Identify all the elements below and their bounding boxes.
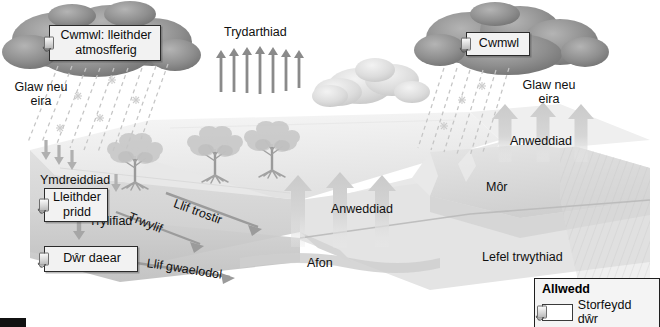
water-store-icon bbox=[38, 199, 49, 212]
store-box-cloud-right-label: Cwmwl bbox=[470, 35, 526, 52]
store-box-cloud-left-label: Cwmwl: lleithder atmosfferig bbox=[50, 27, 160, 58]
label-transpiration: Trydarthiad bbox=[224, 25, 287, 39]
water-store-icon bbox=[43, 37, 54, 50]
evaporation-sea-arrows bbox=[492, 102, 594, 162]
label-sea: Môr bbox=[486, 180, 508, 194]
label-precipitation-right: Glaw neu eira bbox=[517, 78, 581, 106]
label-evaporation-sea: Anweddiad bbox=[510, 134, 572, 148]
label-evaporation-land: Anweddiad bbox=[331, 202, 393, 216]
store-box-groundwater: Dŵr daear bbox=[44, 246, 138, 272]
legend-entry: Storfeydd dŵr bbox=[542, 298, 652, 326]
store-box-cloud-right: Cwmwl bbox=[466, 32, 530, 56]
label-precipitation-left: Glaw neu eira bbox=[10, 80, 72, 108]
water-store-icon bbox=[542, 304, 573, 321]
label-water-table: Lefel trwythiad bbox=[482, 250, 563, 264]
water-store-icon bbox=[460, 38, 471, 51]
label-river: Afon bbox=[307, 256, 333, 270]
legend: Allwedd Storfeydd dŵr bbox=[534, 278, 660, 327]
store-box-soil-moisture: Lleithder pridd bbox=[44, 188, 108, 222]
label-infiltration: Ymdreiddiad bbox=[40, 173, 110, 187]
legend-entry-label: Storfeydd dŵr bbox=[578, 298, 652, 326]
cloud-far-right-light bbox=[312, 85, 348, 107]
water-store-glyph bbox=[536, 306, 547, 319]
water-cycle-diagram: Glaw neu eira Glaw neu eira Trydarthiad … bbox=[0, 0, 660, 327]
store-box-soil-moisture-label: Lleithder pridd bbox=[44, 189, 108, 220]
page-corner-marker bbox=[0, 318, 26, 327]
transpiration-arrows bbox=[216, 46, 304, 94]
water-store-icon bbox=[38, 253, 49, 266]
store-box-groundwater-label: Dŵr daear bbox=[54, 250, 128, 267]
legend-title: Allwedd bbox=[542, 282, 652, 296]
store-box-cloud-left: Cwmwl: lleithder atmosfferig bbox=[49, 25, 161, 61]
